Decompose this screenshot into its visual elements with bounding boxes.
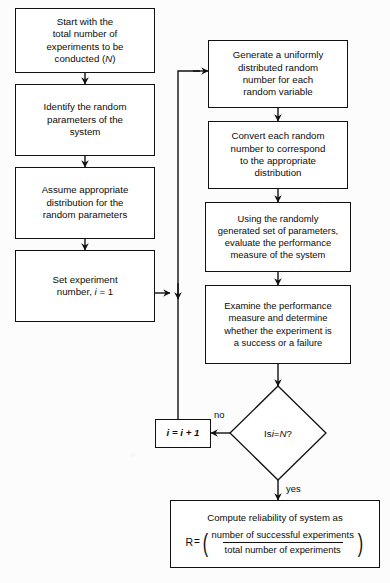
edge-label-no: no bbox=[214, 409, 224, 420]
node-increment-label: i = i + 1 bbox=[163, 427, 204, 439]
formula-numerator: number of successful experiments bbox=[210, 529, 356, 542]
node-start[interactable]: Start with thetotal number ofexperiments… bbox=[15, 8, 155, 73]
formula-fraction: number of successful experiments total n… bbox=[210, 529, 356, 556]
formula-paren-close: ) bbox=[357, 532, 362, 554]
flowchart-canvas: Start with thetotal number ofexperiments… bbox=[0, 0, 390, 583]
node-start-label: Start with thetotal number ofexperiments… bbox=[42, 16, 127, 66]
node-identify-label: Identify the randomparameters of thesyst… bbox=[40, 101, 131, 138]
node-set-experiment-number[interactable]: Set experimentnumber, i = 1 bbox=[15, 250, 155, 322]
edge-loopback-riser bbox=[178, 71, 200, 433]
node-increment-counter[interactable]: i = i + 1 bbox=[155, 419, 211, 448]
node-decision-is-i-equals-n[interactable]: Is i = N? bbox=[230, 386, 326, 480]
node-set-experiment-label: Set experimentnumber, i = 1 bbox=[48, 274, 121, 299]
formula-paren-open: ( bbox=[203, 532, 208, 554]
node-evaluate-performance[interactable]: Using the randomlygenerated set of param… bbox=[205, 202, 351, 272]
node-generate-label: Generate a uniformlydistributed randomnu… bbox=[229, 49, 327, 99]
node-assume-distribution[interactable]: Assume appropriatedistribution for thera… bbox=[15, 167, 155, 239]
edge-label-yes: yes bbox=[286, 483, 301, 494]
reliability-formula: R = ( number of successful experiments t… bbox=[185, 529, 364, 556]
node-convert-random-number[interactable]: Convert each randomnumber to correspondt… bbox=[208, 121, 348, 189]
formula-denominator: total number of experiments bbox=[223, 542, 343, 556]
node-generate-random-number[interactable]: Generate a uniformlydistributed randomnu… bbox=[208, 40, 348, 108]
node-examine-performance[interactable]: Examine the performancemeasure and deter… bbox=[205, 285, 351, 364]
node-evaluate-label: Using the randomlygenerated set of param… bbox=[214, 213, 342, 261]
node-convert-label: Convert each randomnumber to correspondt… bbox=[227, 130, 330, 180]
compute-heading: Compute reliability of system as bbox=[207, 512, 342, 524]
formula-lhs: R bbox=[185, 536, 193, 549]
node-compute-reliability[interactable]: Compute reliability of system as R = ( n… bbox=[170, 500, 380, 568]
node-assume-label: Assume appropriatedistribution for thera… bbox=[38, 184, 133, 221]
formula-equals: = bbox=[194, 536, 200, 549]
node-identify-random-parameters[interactable]: Identify the randomparameters of thesyst… bbox=[15, 84, 155, 156]
node-decision-label: Is i = N? bbox=[230, 386, 326, 480]
node-examine-label: Examine the performancemeasure and deter… bbox=[220, 300, 335, 348]
